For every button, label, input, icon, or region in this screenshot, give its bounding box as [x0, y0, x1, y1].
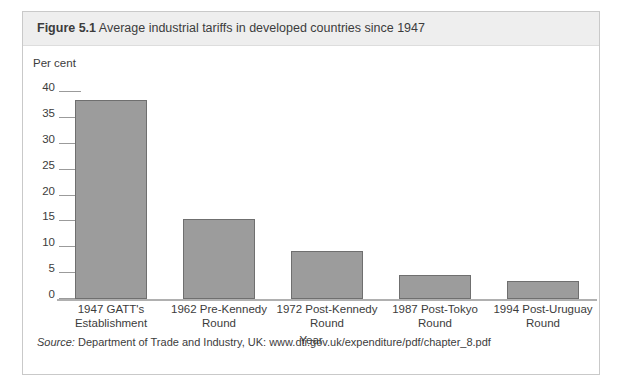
plot-area: 4035302520151050 1947 GATT'sEstablishmen…: [23, 46, 599, 374]
x-axis-label: 1962 Pre-KennedyRound: [160, 302, 278, 330]
y-tick-label: 25: [42, 159, 55, 171]
y-tick-label: 40: [42, 81, 55, 93]
bar-slot: [57, 46, 165, 299]
bar: [291, 251, 363, 299]
x-axis-label: 1994 Post-UruguayRound: [484, 302, 602, 330]
x-axis-label-line: 1947 GATT's: [52, 302, 170, 316]
figure-title: Average industrial tariffs in developed …: [99, 21, 425, 35]
figure-panel: Figure 5.1 Average industrial tariffs in…: [22, 11, 600, 375]
bars-layer: [57, 46, 597, 299]
bar: [399, 275, 471, 299]
source-value: Department of Trade and Industry, UK: ww…: [75, 336, 491, 348]
x-axis-label: 1947 GATT'sEstablishment: [52, 302, 170, 330]
y-tick-label: 15: [42, 210, 55, 222]
bar: [183, 219, 255, 299]
x-axis-label-line: 1994 Post-Uruguay: [484, 302, 602, 316]
bar-slot: [165, 46, 273, 299]
y-tick-label: 35: [42, 107, 55, 119]
x-axis-label: 1987 Post-TokyoRound: [376, 302, 494, 330]
x-axis-label-line: 1962 Pre-Kennedy: [160, 302, 278, 316]
x-axis-line: [57, 299, 597, 301]
source-note: Source: Department of Trade and Industry…: [37, 336, 491, 348]
bar-slot: [489, 46, 597, 299]
figure-header: Figure 5.1 Average industrial tariffs in…: [23, 12, 599, 46]
y-tick-label: 30: [42, 133, 55, 145]
figure-caption: Figure 5.1 Average industrial tariffs in…: [37, 21, 425, 35]
bar: [507, 281, 579, 299]
y-tick-label: 0: [49, 288, 55, 300]
x-axis-label-line: Round: [160, 316, 278, 330]
bar-slot: [273, 46, 381, 299]
bar-slot: [381, 46, 489, 299]
x-axis-label-line: 1987 Post-Tokyo: [376, 302, 494, 316]
x-axis-label-line: 1972 Post-Kennedy: [268, 302, 386, 316]
y-tick-label: 5: [49, 262, 55, 274]
x-axis-label-line: Round: [268, 316, 386, 330]
x-axis-label-line: Round: [376, 316, 494, 330]
chart-container: Per cent 4035302520151050 1947 GATT'sEst…: [23, 46, 599, 374]
x-axis-label-line: Establishment: [52, 316, 170, 330]
bar: [75, 100, 147, 299]
x-axis-label: 1972 Post-KennedyRound: [268, 302, 386, 330]
x-axis-label-line: Round: [484, 316, 602, 330]
y-tick-label: 20: [42, 185, 55, 197]
source-label: Source:: [37, 336, 75, 348]
figure-number: Figure 5.1: [37, 21, 96, 35]
y-tick-label: 10: [42, 236, 55, 248]
